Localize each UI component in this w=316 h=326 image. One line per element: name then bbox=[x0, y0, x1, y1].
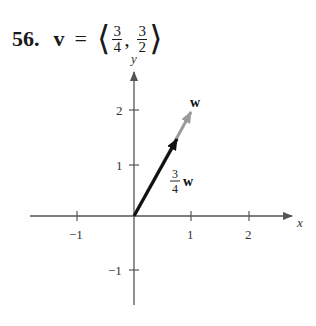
y-tick-1: 1 bbox=[116, 158, 123, 173]
x-tick-2: 2 bbox=[245, 227, 252, 242]
scaled-numerator: 3 bbox=[172, 167, 178, 181]
x-axis-label: x bbox=[296, 215, 303, 230]
x-tick-1: 1 bbox=[187, 227, 194, 242]
vector-graph: −1 1 2 2 1 −1 x y w 3 4 w bbox=[0, 0, 316, 326]
scaled-vector-label: w bbox=[183, 174, 194, 189]
vector-w-label: w bbox=[190, 95, 201, 110]
vector-scaled-w-arrow bbox=[134, 139, 177, 216]
x-tick-neg1: −1 bbox=[69, 227, 83, 242]
y-tick-2: 2 bbox=[116, 103, 123, 118]
y-axis-label: y bbox=[129, 51, 137, 66]
y-tick-neg1: −1 bbox=[108, 263, 122, 278]
scaled-denominator: 4 bbox=[172, 182, 178, 196]
